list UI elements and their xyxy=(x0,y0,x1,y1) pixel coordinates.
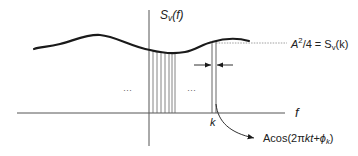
hatched-region xyxy=(153,50,175,113)
x-axis-label: f xyxy=(295,106,299,119)
spectral-density-curve xyxy=(34,35,249,53)
amplitude-label: A2/4 = Sv(k) xyxy=(291,37,348,52)
ellipsis-left: ··· xyxy=(123,86,132,95)
k-label: k xyxy=(210,117,216,128)
y-axis-label: Sv(f) xyxy=(160,9,184,22)
cosine-label: Acos(2πkt+ϕk) xyxy=(263,133,333,146)
curved-arrow xyxy=(216,104,254,138)
ellipsis-right: ··· xyxy=(187,86,196,95)
